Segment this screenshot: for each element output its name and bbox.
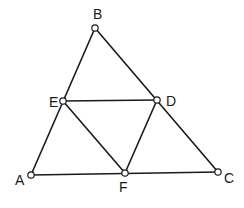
point-f-label: F xyxy=(119,179,128,195)
triangle-diagram: BEDAFC xyxy=(0,0,244,208)
point-b-label: B xyxy=(93,6,102,22)
segment-ed xyxy=(63,100,157,101)
segment-ef xyxy=(63,101,125,173)
segment-df xyxy=(125,100,157,173)
point-b-marker xyxy=(92,25,98,31)
point-c-marker xyxy=(215,169,221,175)
point-f-marker xyxy=(122,170,128,176)
point-c-label: C xyxy=(224,170,234,186)
point-d-marker xyxy=(154,97,160,103)
point-a-marker xyxy=(28,172,34,178)
point-e-label: E xyxy=(49,94,58,110)
point-a-label: A xyxy=(15,172,25,188)
point-e-marker xyxy=(60,98,66,104)
point-d-label: D xyxy=(166,93,176,109)
segments-group xyxy=(31,28,218,175)
